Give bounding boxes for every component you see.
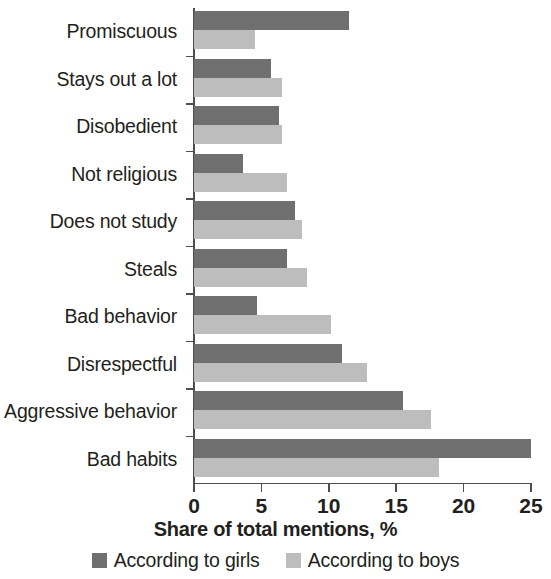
bar-group bbox=[194, 56, 531, 104]
bar-group bbox=[194, 388, 531, 436]
bar-girls bbox=[194, 154, 243, 173]
bar-boys bbox=[194, 363, 367, 382]
category-label: Bad behavior bbox=[0, 293, 186, 341]
x-axis-tick bbox=[463, 483, 465, 492]
x-axis-tick bbox=[328, 483, 330, 492]
bar-girls bbox=[194, 11, 349, 30]
x-axis-tick-label: 5 bbox=[256, 494, 268, 518]
y-axis-tick bbox=[186, 246, 193, 248]
x-axis-title: Share of total mentions, % bbox=[0, 518, 551, 541]
bar-group bbox=[194, 151, 531, 199]
category-axis-labels: Promiscuous Stays out a lot Disobedient … bbox=[0, 8, 186, 483]
bar-boys bbox=[194, 410, 431, 429]
bar-boys bbox=[194, 315, 331, 334]
bar-group bbox=[194, 246, 531, 294]
y-axis-tick bbox=[186, 388, 193, 390]
bar-girls bbox=[194, 439, 531, 458]
bar-boys bbox=[194, 458, 439, 477]
category-label: Disrespectful bbox=[0, 341, 186, 389]
bar-boys bbox=[194, 78, 282, 97]
category-label: Bad habits bbox=[0, 436, 186, 484]
x-axis-tick-label: 0 bbox=[188, 494, 200, 518]
y-axis-tick bbox=[186, 341, 193, 343]
bar-girls bbox=[194, 201, 295, 220]
legend-label-boys: According to boys bbox=[308, 549, 460, 572]
x-axis-tick bbox=[261, 483, 263, 492]
y-axis-tick bbox=[186, 103, 193, 105]
bar-group bbox=[194, 8, 531, 56]
x-axis-tick bbox=[193, 483, 195, 492]
chart-legend: According to girls According to boys bbox=[0, 549, 551, 572]
legend-swatch-girls bbox=[92, 553, 107, 568]
bar-boys bbox=[194, 268, 307, 287]
x-axis-tick-label: 20 bbox=[452, 494, 475, 518]
legend-swatch-boys bbox=[286, 553, 301, 568]
y-axis-tick bbox=[186, 436, 193, 438]
bar-girls bbox=[194, 59, 271, 78]
bar-chart-figure: Promiscuous Stays out a lot Disobedient … bbox=[0, 0, 551, 579]
x-axis-tick-label: 15 bbox=[385, 494, 408, 518]
category-label: Promiscuous bbox=[0, 8, 186, 56]
bar-boys bbox=[194, 30, 255, 49]
x-axis-tick bbox=[530, 483, 532, 492]
plot-area: 0510152025 bbox=[194, 8, 531, 483]
category-label: Stays out a lot bbox=[0, 56, 186, 104]
y-axis-tick bbox=[186, 56, 193, 58]
bar-girls bbox=[194, 296, 257, 315]
y-axis-tick bbox=[186, 198, 193, 200]
category-label: Aggressive behavior bbox=[0, 388, 186, 436]
bar-group bbox=[194, 436, 531, 484]
x-axis-tick bbox=[395, 483, 397, 492]
category-label: Disobedient bbox=[0, 103, 186, 151]
bar-group bbox=[194, 198, 531, 246]
y-axis-tick bbox=[186, 151, 193, 153]
legend-item-boys: According to boys bbox=[286, 549, 460, 572]
bar-girls bbox=[194, 106, 279, 125]
y-axis-tick bbox=[186, 293, 193, 295]
x-axis-tick-label: 25 bbox=[519, 494, 542, 518]
bar-girls bbox=[194, 391, 403, 410]
legend-item-girls: According to girls bbox=[92, 549, 260, 572]
x-axis-tick-label: 10 bbox=[317, 494, 340, 518]
category-label: Steals bbox=[0, 246, 186, 294]
legend-label-girls: According to girls bbox=[114, 549, 260, 572]
bar-boys bbox=[194, 220, 302, 239]
bar-girls bbox=[194, 249, 287, 268]
bar-girls bbox=[194, 344, 342, 363]
bar-boys bbox=[194, 125, 282, 144]
bar-boys bbox=[194, 173, 287, 192]
bar-group bbox=[194, 341, 531, 389]
bar-group bbox=[194, 293, 531, 341]
category-label: Does not study bbox=[0, 198, 186, 246]
bar-group bbox=[194, 103, 531, 151]
category-label: Not religious bbox=[0, 151, 186, 199]
